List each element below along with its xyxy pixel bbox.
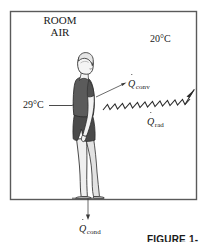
dot-accent-icon [150, 112, 152, 114]
q-radiation-symbol: Q [147, 116, 155, 127]
dot-accent-icon [82, 219, 84, 221]
skin-temperature-label: 29°C [23, 100, 44, 110]
q-convection-label: Qconv [128, 79, 150, 91]
q-convection-subscript: conv [136, 83, 150, 91]
conduction-arrow [86, 198, 90, 220]
far-foot [94, 197, 105, 199]
room-air-line-1: ROOM [43, 14, 76, 26]
dot-accent-icon [131, 74, 133, 76]
q-conduction-label: Qcond [79, 224, 101, 236]
near-foot [76, 197, 92, 199]
q-convection-symbol: Q [128, 78, 136, 89]
conduction-arrowhead [86, 214, 90, 220]
q-conduction-symbol: Q [79, 223, 87, 234]
room-air-line-2: AIR [29, 26, 91, 38]
q-conduction-subscript: cond [87, 228, 101, 236]
room-air-label: ROOM AIR [29, 14, 91, 38]
figure-illustration: ROOM AIR 20°C 29°C Qconv Qrad Qcond FIGU… [0, 0, 207, 242]
q-radiation-subscript: rad [155, 121, 164, 129]
figure-caption: FIGURE 1-12 [147, 234, 207, 242]
q-radiation-label: Qrad [147, 117, 164, 129]
ambient-temperature-label: 20°C [150, 34, 171, 44]
